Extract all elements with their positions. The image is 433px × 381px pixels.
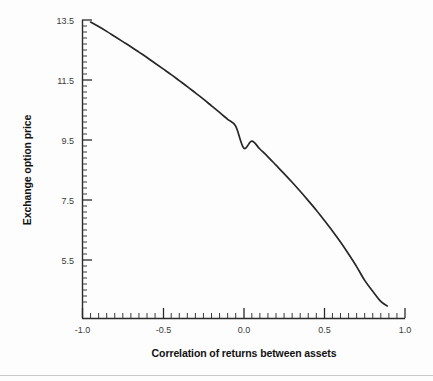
x-tick-label-1-0: 1.0: [399, 325, 412, 335]
y-tick-label-5-5: 5.5: [61, 256, 74, 266]
y-tick-label-11-5: 11.5: [57, 76, 74, 86]
chart-background: [0, 0, 433, 381]
x-axis-title: Correlation of returns between assets: [152, 347, 337, 359]
y-tick-label-7-5: 7.5: [61, 196, 74, 206]
chart-figure: 13.5 11.5 9.5 7.5 5.5 -1.0 -0.5 0.0 0.5 …: [0, 0, 433, 381]
y-tick-label-13-5: 13.5: [56, 16, 74, 26]
y-axis-title: Exchange option price: [21, 114, 33, 225]
y-tick-label-9-5: 9.5: [61, 136, 74, 146]
x-tick-label-0-5: 0.5: [318, 325, 331, 335]
page-divider-rule: [0, 375, 433, 376]
line-chart: 13.5 11.5 9.5 7.5 5.5 -1.0 -0.5 0.0 0.5 …: [0, 0, 433, 381]
x-tick-label-neg-1-0: -1.0: [75, 325, 91, 335]
x-tick-label-neg-0-5: -0.5: [156, 325, 172, 335]
x-tick-label-0-0: 0.0: [238, 325, 251, 335]
